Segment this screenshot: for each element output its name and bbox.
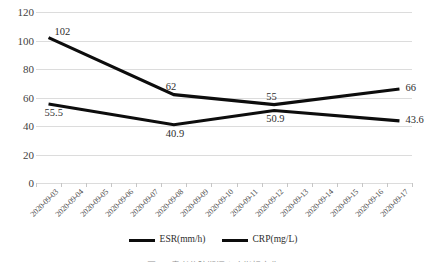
x-axis-tick <box>362 183 363 187</box>
series-line-esr <box>49 38 400 105</box>
chart-legend: ESR(mm/h)CRP(mg/L) <box>0 233 426 247</box>
x-axis-tick <box>262 183 263 187</box>
x-axis: 2020-09-032020-09-042020-09-052020-09-06… <box>36 183 412 239</box>
x-axis-tick <box>237 183 238 187</box>
legend-item[interactable]: ESR(mm/h) <box>129 235 206 245</box>
series-layer <box>36 12 412 183</box>
x-axis-tick <box>337 183 338 187</box>
x-axis-tick <box>211 183 212 187</box>
figure-caption: 图2-2 患者住院期间炎症指标变化 <box>0 255 426 262</box>
series-line-crp <box>49 104 400 125</box>
x-axis-tick <box>61 183 62 187</box>
y-axis-tick-label: 20 <box>4 150 34 161</box>
legend-item[interactable]: CRP(mg/L) <box>222 235 298 245</box>
y-axis-tick-label: 120 <box>4 7 34 18</box>
y-axis-tick-label: 0 <box>4 178 34 189</box>
legend-line-swatch <box>222 239 248 242</box>
data-point-label: 62 <box>166 82 177 93</box>
y-axis-tick-label: 100 <box>4 36 34 47</box>
line-chart: 020406080100120 10262556655.540.950.943.… <box>0 0 426 262</box>
data-point-label: 102 <box>55 27 71 38</box>
data-point-label: 55 <box>266 92 277 103</box>
y-axis-tick-label: 40 <box>4 121 34 132</box>
x-axis-tick <box>312 183 313 187</box>
x-axis-tick <box>161 183 162 187</box>
x-axis-tick <box>136 183 137 187</box>
data-point-label: 66 <box>405 83 416 94</box>
data-point-label: 55.5 <box>45 108 63 119</box>
data-point-label: 40.9 <box>166 129 184 140</box>
plot-area: 10262556655.540.950.943.6 <box>36 12 412 183</box>
y-axis: 020406080100120 <box>0 0 34 195</box>
x-axis-tick <box>86 183 87 187</box>
x-axis-tick <box>387 183 388 187</box>
legend-item-label: CRP(mg/L) <box>253 235 298 245</box>
data-point-label: 50.9 <box>266 114 284 125</box>
y-axis-tick-label: 60 <box>4 93 34 104</box>
x-axis-tick <box>111 183 112 187</box>
x-axis-tick <box>36 183 37 187</box>
x-axis-tick <box>186 183 187 187</box>
data-point-label: 43.6 <box>405 115 423 126</box>
y-axis-tick-label: 80 <box>4 64 34 75</box>
x-axis-tick <box>412 183 413 187</box>
legend-line-swatch <box>129 239 155 242</box>
x-axis-tick <box>287 183 288 187</box>
legend-item-label: ESR(mm/h) <box>160 235 206 245</box>
